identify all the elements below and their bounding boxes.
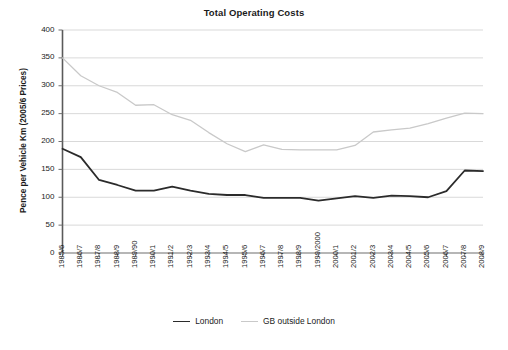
x-tick-label: 2005/6 [422, 245, 431, 268]
plot-canvas [0, 0, 508, 350]
x-tick-label: 1991/2 [166, 245, 175, 268]
x-tick-label: 1989/90 [130, 241, 139, 268]
series-line-gb-outside-london [63, 58, 484, 152]
x-tick-label: 1999/2000 [313, 232, 322, 268]
x-tick-label: 1988/9 [112, 245, 121, 268]
line-swatch-dark-icon [173, 321, 190, 322]
x-tick-label: 1986/7 [75, 245, 84, 268]
gridlines [63, 30, 484, 253]
x-tick-label: 1996/7 [258, 245, 267, 268]
chart-legend: London GB outside London [0, 316, 508, 326]
x-tick-label: 1992/3 [185, 245, 194, 268]
chart-figure: Total Operating Costs Pence per Vehicle … [0, 0, 508, 350]
x-tick-marks [63, 253, 484, 257]
legend-label-gb-outside-london: GB outside London [263, 316, 335, 326]
x-tick-label: 1998/9 [294, 245, 303, 268]
x-tick-label: 2004/5 [404, 245, 413, 268]
series-line-london [63, 149, 484, 201]
legend-item-london: London [173, 316, 223, 326]
x-tick-label: 1995/6 [240, 245, 249, 268]
line-swatch-light-icon [241, 321, 258, 322]
legend-label-london: London [195, 316, 223, 326]
x-tick-label: 1997/8 [276, 245, 285, 268]
x-tick-label: 2008/9 [477, 245, 486, 268]
legend-item-gb-outside-london: GB outside London [241, 316, 335, 326]
x-tick-label: 1990/1 [148, 245, 157, 268]
x-tick-label: 2006/7 [441, 245, 450, 268]
x-tick-label: 1993/4 [203, 245, 212, 268]
x-tick-label: 1987/8 [93, 245, 102, 268]
x-tick-label: 2002/3 [368, 245, 377, 268]
x-tick-label: 2007/8 [459, 245, 468, 268]
x-tick-label: 1985/6 [57, 245, 66, 268]
x-tick-label: 1994/5 [221, 245, 230, 268]
x-tick-label: 2000/1 [331, 245, 340, 268]
x-tick-label: 2003/4 [386, 245, 395, 268]
x-tick-label: 2001/2 [349, 245, 358, 268]
